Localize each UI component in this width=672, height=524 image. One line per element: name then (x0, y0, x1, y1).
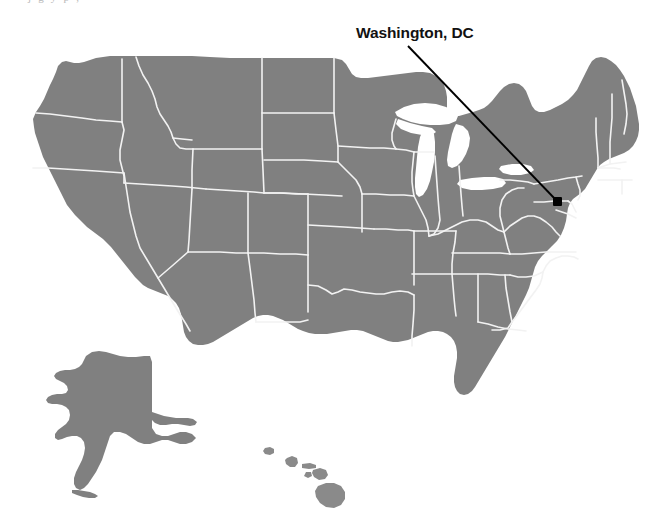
hawaii-lanai (304, 472, 312, 478)
alaska-aleutian-chain (72, 490, 98, 498)
hawaii-molokai (302, 463, 316, 469)
hawaii-big-island (315, 483, 345, 508)
border-nh-ma (610, 162, 626, 164)
hawaii-kauai (263, 447, 274, 455)
alaska-inset (46, 351, 197, 498)
contiguous-united-states (33, 56, 639, 395)
hawaii-oahu (285, 456, 298, 467)
contiguous-land-fill (33, 56, 639, 395)
hawaii-maui (312, 468, 328, 480)
usa-map (0, 0, 672, 524)
hawaii-inset (263, 447, 345, 508)
figure-canvas: j g y p , (0, 0, 672, 524)
washington-dc-label: Washington, DC (356, 24, 474, 42)
border-ny-ma-ct (598, 168, 620, 169)
alaska-panhandle (152, 412, 197, 426)
border-de-nj (568, 201, 576, 212)
border-sc-nc (543, 256, 578, 272)
washington-dc-marker (553, 197, 562, 206)
